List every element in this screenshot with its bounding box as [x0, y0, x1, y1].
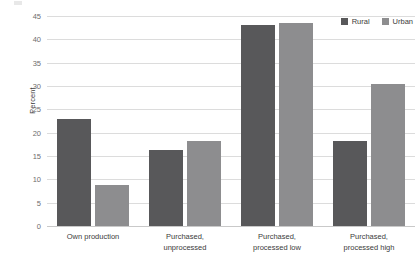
legend-item-rural[interactable]: Rural [341, 17, 370, 26]
x-axis-label-line: Purchased, [323, 232, 415, 243]
bar-urban [279, 23, 313, 226]
bar-group [231, 16, 323, 226]
y-axis-tick-labels: 051015202530354045 [0, 16, 47, 226]
x-axis-label-line: processed low [231, 243, 323, 254]
bar-urban [371, 84, 405, 226]
bar-rural [333, 141, 367, 226]
gridline [47, 226, 415, 227]
x-axis-label-line: Purchased, [139, 232, 231, 243]
legend-swatch-icon [341, 18, 348, 25]
bar-rural [57, 119, 91, 226]
legend-item-urban[interactable]: Urban [382, 17, 413, 26]
x-axis-category-labels: Own productionPurchased,unprocessedPurch… [47, 232, 415, 268]
legend-label: Urban [393, 17, 413, 26]
bar-rural [149, 150, 183, 226]
y-tick-label: 35 [11, 58, 41, 67]
legend-swatch-icon [382, 18, 389, 25]
legend-label: Rural [352, 17, 370, 26]
x-axis-label: Purchased,processed high [323, 232, 415, 253]
x-axis-label-line: Purchased, [231, 232, 323, 243]
y-tick-label: 5 [11, 198, 41, 207]
plot-area [47, 16, 415, 226]
x-axis-label: Own production [47, 232, 139, 243]
bar-chart: Percent 051015202530354045 Own productio… [0, 0, 419, 272]
y-tick-label: 20 [11, 128, 41, 137]
bar-urban [187, 141, 221, 226]
bar-group [47, 16, 139, 226]
y-tick-label: 40 [11, 35, 41, 44]
x-axis-label: Purchased,processed low [231, 232, 323, 253]
y-tick-label: 30 [11, 82, 41, 91]
x-axis-label-line: unprocessed [139, 243, 231, 254]
y-tick-label: 25 [11, 105, 41, 114]
chart-legend: RuralUrban [341, 17, 413, 26]
x-axis-label: Purchased,unprocessed [139, 232, 231, 253]
y-tick-label: 15 [11, 152, 41, 161]
bars-layer [47, 16, 415, 226]
bar-group [139, 16, 231, 226]
y-tick-label: 10 [11, 175, 41, 184]
x-axis-label-line: processed high [323, 243, 415, 254]
bar-urban [95, 185, 129, 226]
y-tick-label: 0 [11, 222, 41, 231]
bar-group [323, 16, 415, 226]
corner-artifact [14, 1, 22, 5]
bar-rural [241, 25, 275, 226]
y-tick-label: 45 [11, 12, 41, 21]
x-axis-label-line: Own production [47, 232, 139, 243]
